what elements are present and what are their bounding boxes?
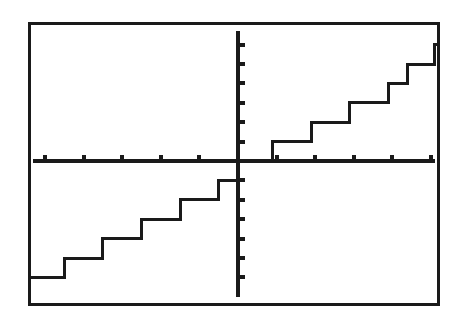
screenshot-root — [0, 0, 467, 319]
graphing-calculator-screen[interactable] — [28, 22, 440, 306]
step-function-plot — [31, 25, 437, 303]
